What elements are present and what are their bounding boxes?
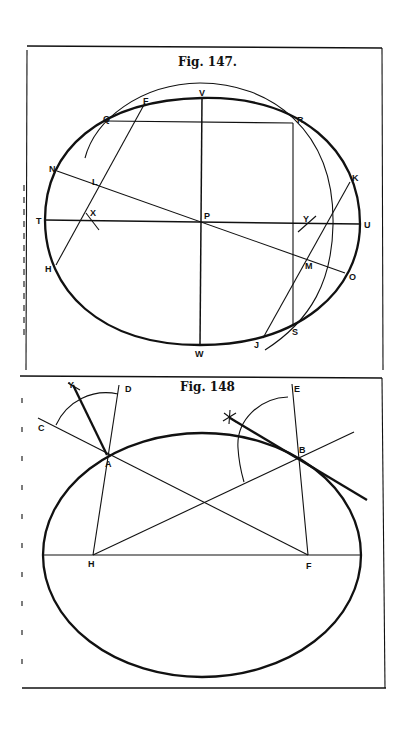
line-KJ [263, 182, 350, 338]
label-C: C [38, 423, 45, 433]
figure-147: Fig. 147. V F Q R N L K T X P Y U H [20, 46, 383, 378]
label-E: E [294, 384, 300, 394]
angle-arc-B [238, 397, 288, 482]
line-CF [38, 418, 308, 555]
tangent-line-B [230, 418, 367, 500]
frame-right-line [382, 378, 385, 688]
line-FE [292, 384, 308, 555]
figure-148: Fig. 148 Y D E C A B H F [22, 378, 386, 688]
label-X: X [90, 208, 96, 218]
label-N: N [49, 164, 56, 174]
frame-right-line [382, 48, 383, 370]
label-T: T [36, 216, 42, 226]
figure-title: Fig. 147. [178, 55, 237, 69]
label-W: W [195, 349, 204, 359]
frame-separator-line [20, 376, 382, 378]
label-M: M [305, 261, 313, 271]
label-R: R [297, 115, 304, 125]
label-P: P [204, 211, 210, 221]
label-H: H [88, 559, 95, 569]
figure-title: Fig. 148 [180, 380, 235, 394]
label-F: F [306, 561, 312, 571]
line-HB [93, 432, 354, 555]
label-L: L [92, 177, 98, 187]
label-H: H [45, 264, 52, 274]
label-U: U [364, 220, 371, 230]
label-K: K [352, 173, 359, 183]
frame-left-line [26, 50, 27, 370]
frame-top-line [27, 46, 382, 48]
label-Y: Y [68, 380, 74, 390]
label-D: D [125, 384, 132, 394]
label-F: F [143, 96, 149, 106]
label-A: A [105, 459, 112, 469]
label-Y: Y [303, 214, 309, 224]
label-B: B [299, 445, 306, 455]
angle-arc-A [56, 393, 118, 425]
label-O: O [349, 272, 356, 282]
label-J: J [254, 340, 259, 350]
label-S: S [292, 327, 298, 337]
label-Q: Q [103, 114, 110, 124]
line-HD [93, 385, 119, 555]
diagram-canvas: Fig. 147. V F Q R N L K T X P Y U H [0, 0, 407, 737]
label-V: V [199, 88, 205, 98]
